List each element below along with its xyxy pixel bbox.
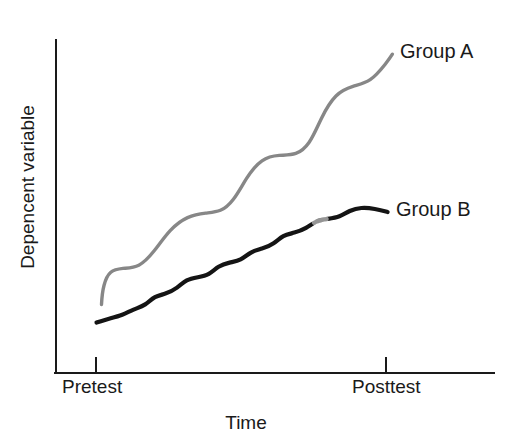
x-tick-label-pretest: Pretest	[62, 376, 123, 397]
x-tick-label-posttest: Posttest	[352, 376, 421, 397]
x-axis-title: Time	[225, 412, 267, 433]
series-label-group-b: Group B	[396, 198, 470, 220]
chart-canvas: Pretest Posttest Time Group A Group B	[0, 0, 509, 447]
chart-figure: Pretest Posttest Time Group A Group B De…	[0, 0, 509, 447]
series-line-group-a	[102, 54, 393, 304]
series-line-group-b-fade	[314, 219, 327, 223]
series-label-group-a: Group A	[400, 40, 474, 62]
